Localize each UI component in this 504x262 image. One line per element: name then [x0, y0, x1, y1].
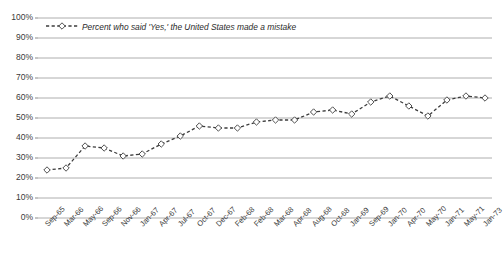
y-axis-tick-label: 70% — [0, 72, 33, 82]
y-axis-tick-label: 20% — [0, 172, 33, 182]
legend-marker — [46, 23, 78, 29]
data-point-marker — [406, 103, 412, 109]
y-axis-tick-label: 0% — [0, 212, 33, 222]
data-point-marker — [253, 119, 259, 125]
data-point-marker — [158, 141, 164, 147]
data-point-marker — [310, 109, 316, 115]
data-point-marker — [44, 167, 50, 173]
legend-label: Percent who said 'Yes,' the United State… — [82, 22, 296, 32]
y-axis-tick-label: 10% — [0, 192, 33, 202]
series-line — [47, 96, 485, 170]
data-point-marker — [348, 111, 354, 117]
y-axis-tick-label: 100% — [0, 12, 33, 22]
data-point-marker — [234, 125, 240, 131]
data-point-marker — [215, 125, 221, 131]
y-axis-tick-label: 50% — [0, 112, 33, 122]
data-point-marker — [329, 107, 335, 113]
y-axis-tick-label: 40% — [0, 132, 33, 142]
data-series-group — [44, 93, 488, 173]
data-point-marker — [482, 95, 488, 101]
data-point-marker — [101, 145, 107, 151]
data-point-marker — [368, 99, 374, 105]
data-point-marker — [63, 165, 69, 171]
y-axis-tick-label: 60% — [0, 92, 33, 102]
legend-diamond-icon — [59, 23, 65, 29]
data-point-marker — [139, 151, 145, 157]
y-axis-tick-label: 30% — [0, 152, 33, 162]
data-point-marker — [196, 123, 202, 129]
y-axis-tick-label: 90% — [0, 32, 33, 42]
y-axis-tick-label: 80% — [0, 52, 33, 62]
gridlines-group — [35, 18, 492, 218]
